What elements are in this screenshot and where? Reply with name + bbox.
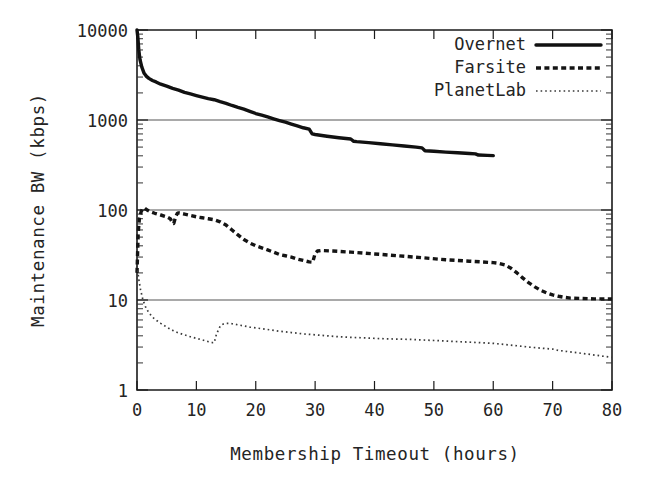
maintenance-bandwidth-chart: 10000 1000 100 10 1 01020304050607080 Ma… xyxy=(0,0,651,484)
y-tick-label-10: 10 xyxy=(108,291,128,311)
x-tick-label-20: 20 xyxy=(246,400,266,420)
y-tick-label-1: 1 xyxy=(118,381,128,401)
y-tick-label-100: 100 xyxy=(97,201,128,221)
x-axis-tick-labels: 01020304050607080 xyxy=(132,400,622,420)
legend-label-farsite: Farsite xyxy=(454,57,526,77)
x-tick-label-60: 60 xyxy=(483,400,503,420)
x-tick-label-80: 80 xyxy=(602,400,622,420)
y-tick-label-1000: 1000 xyxy=(87,111,128,131)
x-tick-label-40: 40 xyxy=(364,400,384,420)
x-tick-label-10: 10 xyxy=(186,400,206,420)
x-tick-label-0: 0 xyxy=(132,400,142,420)
legend-label-overnet: Overnet xyxy=(454,34,526,54)
legend-label-planetlab: PlanetLab xyxy=(434,80,526,100)
y-tick-label-10000: 10000 xyxy=(77,21,128,41)
x-tick-label-70: 70 xyxy=(542,400,562,420)
x-tick-label-30: 30 xyxy=(305,400,325,420)
x-axis-title: Membership Timeout (hours) xyxy=(230,444,520,464)
y-axis-title: Maintenance BW (kbps) xyxy=(28,93,48,327)
x-tick-label-50: 50 xyxy=(424,400,444,420)
chart-figure: 10000 1000 100 10 1 01020304050607080 Ma… xyxy=(0,0,651,484)
